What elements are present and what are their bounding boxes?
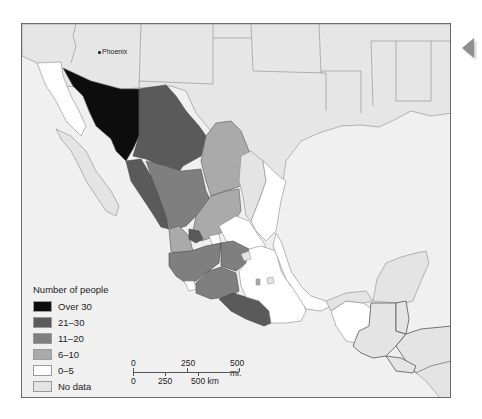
scale-tick [239,368,240,372]
legend-item-21-30: 21–30 [33,314,109,330]
legend-swatch-icon [33,317,52,328]
legend-title: Number of people [33,284,109,295]
legend-item-over-30: Over 30 [33,298,109,314]
scale-tick [187,368,188,372]
scale-miles-end: 500 mi. [230,358,251,378]
scale-km-zero: 0 [131,376,136,386]
legend-swatch-icon [33,381,52,392]
scale-tick [133,368,134,376]
legend-item-no-data: No data [33,378,109,394]
legend-item-0-5: 0–5 [33,362,109,378]
scale-bar: 0 250 500 mi. 0 250 500 km [131,358,251,388]
city-label-phoenix: Phoenix [98,48,127,55]
legend-swatch-icon [33,301,52,312]
legend-item-11-20: 11–20 [33,330,109,346]
scale-miles-mid: 250 [181,358,195,368]
legend-swatch-icon [33,333,52,344]
country-belize [396,301,409,334]
legend-swatch-icon [33,365,52,376]
legend: Number of people Over 30 21–30 11–20 6–1… [33,284,109,394]
scale-line [133,372,239,373]
previous-arrow-icon[interactable] [462,38,474,58]
region-tlaxcala [267,277,274,284]
legend-swatch-icon [33,349,52,360]
scale-km-end: 500 km [191,376,219,386]
legend-item-6-10: 6–10 [33,346,109,362]
scale-miles-zero: 0 [131,358,136,368]
scale-km-mid: 250 [158,376,172,386]
region-morelos [256,279,260,285]
city-dot-icon [98,51,101,54]
